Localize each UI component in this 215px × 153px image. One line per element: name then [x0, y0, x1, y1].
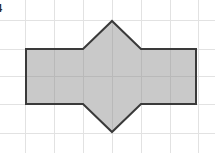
figure-canvas: 4: [0, 0, 215, 153]
shape-diagram: [0, 0, 215, 153]
figure-number-label: 4: [0, 3, 6, 14]
